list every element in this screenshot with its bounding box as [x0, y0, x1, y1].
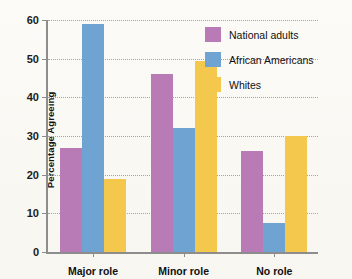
- bar: [104, 179, 126, 252]
- y-tick-label: 30: [27, 130, 39, 142]
- y-tick-mark: [42, 213, 46, 214]
- y-tick-label: 50: [27, 53, 39, 65]
- legend-swatch: [205, 27, 221, 42]
- y-tick-mark: [42, 20, 46, 21]
- y-tick-label: 10: [27, 207, 39, 219]
- bar: [241, 151, 263, 252]
- bar: [263, 223, 285, 252]
- x-tick-mark: [184, 252, 185, 257]
- legend-label: Whites: [229, 79, 261, 91]
- legend-label: National adults: [229, 29, 298, 41]
- x-axis-line: [46, 252, 318, 254]
- y-tick-mark: [42, 175, 46, 176]
- legend-swatch: [205, 52, 221, 67]
- gridline: [48, 20, 318, 21]
- y-tick-label: 40: [27, 91, 39, 103]
- chart-page: Percentage Agreeing 0102030405060 Major …: [0, 0, 352, 279]
- y-tick-mark: [42, 136, 46, 137]
- bar: [173, 128, 195, 252]
- bar: [60, 148, 82, 252]
- y-tick-label: 60: [27, 14, 39, 26]
- legend-item: African Americans: [205, 52, 314, 67]
- legend-label: African Americans: [229, 54, 314, 66]
- x-axis-category-label: Minor role: [158, 265, 209, 277]
- legend-swatch: [205, 77, 221, 92]
- y-tick-mark: [42, 59, 46, 60]
- y-tick-label: 20: [27, 169, 39, 181]
- x-tick-mark: [93, 252, 94, 257]
- x-tick-mark: [274, 252, 275, 257]
- x-axis-category-label: Major role: [68, 265, 118, 277]
- legend-item: Whites: [205, 77, 314, 92]
- legend-item: National adults: [205, 27, 314, 42]
- chart-legend: National adultsAfrican AmericansWhites: [205, 27, 314, 92]
- bar: [82, 24, 104, 252]
- y-tick-mark: [42, 97, 46, 98]
- y-tick-label: 0: [33, 246, 39, 258]
- bar: [285, 136, 307, 252]
- x-axis-category-label: No role: [256, 265, 292, 277]
- bar: [151, 74, 173, 252]
- y-tick-mark: [42, 252, 46, 253]
